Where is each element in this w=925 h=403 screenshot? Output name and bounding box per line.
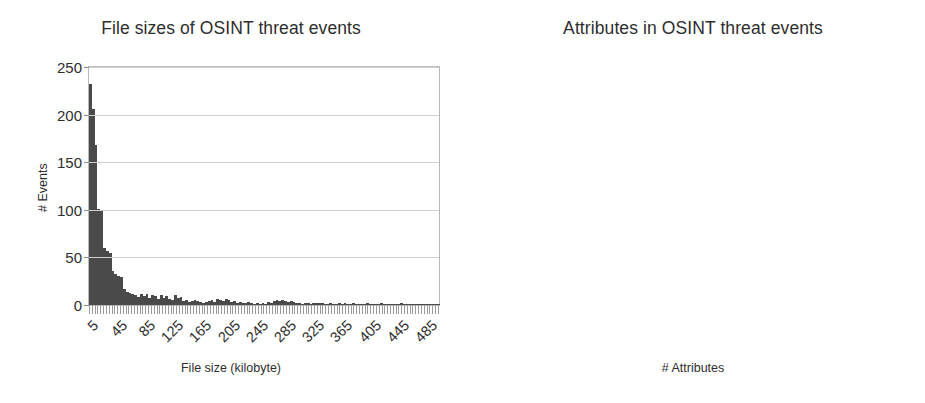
gridline bbox=[89, 67, 439, 68]
x-tick-label: 205 bbox=[214, 317, 242, 345]
gridline bbox=[89, 115, 439, 116]
y-tick-label: 0 bbox=[74, 297, 89, 314]
x-tick-label: 485 bbox=[412, 317, 440, 345]
gridline bbox=[89, 257, 439, 258]
y-tick-label: 250 bbox=[57, 59, 89, 76]
chart-file-sizes: File sizes of OSINT threat events # Even… bbox=[0, 0, 462, 403]
x-tick-label: 325 bbox=[299, 317, 327, 345]
chart-title-file-sizes: File sizes of OSINT threat events bbox=[0, 18, 462, 39]
x-tick-labels-file-sizes: 54585125165205245285325365405445485 bbox=[89, 305, 439, 355]
x-tick-label: 165 bbox=[186, 317, 214, 345]
x-tick-label: 45 bbox=[107, 317, 130, 340]
y-tick-label: 150 bbox=[57, 154, 89, 171]
bar-series-file-sizes bbox=[89, 67, 439, 305]
y-tick-label: 200 bbox=[57, 106, 89, 123]
y-tick-label: 50 bbox=[65, 249, 89, 266]
chart-title-attributes: Attributes in OSINT threat events bbox=[462, 18, 924, 39]
x-axis-title-file-sizes: File size (kilobyte) bbox=[0, 361, 462, 375]
x-tick-label: 245 bbox=[243, 317, 271, 345]
gridline bbox=[89, 210, 439, 211]
x-axis-title-attributes: # Attributes bbox=[462, 361, 924, 375]
x-tick-label: 285 bbox=[271, 317, 299, 345]
x-tick-label: 85 bbox=[135, 317, 158, 340]
plot-area-file-sizes: 54585125165205245285325365405445485 0501… bbox=[88, 66, 440, 306]
x-tick-label: 125 bbox=[158, 317, 186, 345]
x-tick-label: 405 bbox=[356, 317, 384, 345]
chart-attributes: Attributes in OSINT threat events # Even… bbox=[462, 0, 924, 403]
y-tick-label: 100 bbox=[57, 201, 89, 218]
x-tick-label: 365 bbox=[327, 317, 355, 345]
x-tick-label: 5 bbox=[85, 317, 102, 334]
x-tick-label: 445 bbox=[384, 317, 412, 345]
y-axis-label-file-sizes: # Events bbox=[36, 163, 50, 212]
gridline bbox=[89, 162, 439, 163]
